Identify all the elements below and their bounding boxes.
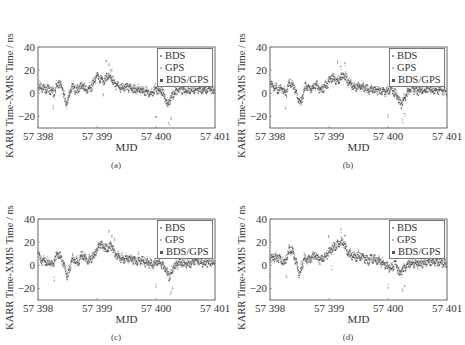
square-marker-icon [392, 67, 394, 69]
square-marker-icon [160, 239, 162, 241]
panel-caption: (b) [232, 160, 464, 170]
legend-label: BDS/GPS [398, 74, 441, 86]
legend-label: GPS [397, 234, 416, 246]
square-marker-icon [160, 79, 163, 82]
x-tick-label: 57 400 [373, 130, 404, 142]
y-axis-label: KARR Time-XMIS Time / ns [4, 33, 15, 158]
legend-label: BDS/GPS [398, 246, 441, 258]
legend-item: BDS [392, 222, 441, 234]
square-marker-icon [160, 227, 162, 229]
x-axis-label: MJD [347, 313, 369, 325]
x-tick-label: 57 398 [255, 302, 286, 314]
y-axis-label: KARR Time-XMIS Time / ns [4, 205, 15, 330]
x-tick-label: 57 401 [432, 302, 462, 314]
y-tick-label: −20 [250, 110, 268, 122]
x-tick-label: 57 399 [314, 130, 345, 142]
square-marker-icon [160, 251, 163, 254]
y-tick-label: 0 [30, 259, 36, 271]
x-axis-label: MJD [115, 141, 137, 153]
legend-label: BDS [165, 50, 185, 62]
panel-caption: (c) [0, 332, 232, 342]
y-tick-label: −20 [250, 282, 268, 294]
x-tick-label: 57 400 [141, 130, 172, 142]
y-tick-label: 20 [24, 64, 36, 76]
y-tick-label: 0 [262, 87, 268, 99]
y-tick-label: 20 [256, 64, 268, 76]
x-tick-label: 57 400 [141, 302, 172, 314]
y-tick-label: 40 [24, 41, 36, 53]
chart-panel-b: 40200−2057 39857 39957 40057 401MJDKARR … [232, 0, 464, 172]
chart-panel-d: 40200−2057 39857 39957 40057 401MJDKARR … [232, 172, 464, 344]
legend-label: GPS [397, 62, 416, 74]
legend: BDSGPSBDS/GPS [157, 220, 213, 259]
legend-label: GPS [165, 62, 184, 74]
chart-panel-a: 40200−2057 39857 39957 40057 401MJDKARR … [0, 0, 232, 172]
y-tick-label: 0 [30, 87, 36, 99]
square-marker-icon [392, 79, 395, 82]
square-marker-icon [392, 251, 395, 254]
legend-item: BDS/GPS [392, 246, 441, 258]
legend: BDSGPSBDS/GPS [389, 220, 445, 259]
legend-label: BDS [397, 222, 417, 234]
x-tick-label: 57 399 [314, 302, 345, 314]
y-tick-label: 0 [262, 259, 268, 271]
y-tick-label: 40 [24, 213, 36, 225]
y-tick-label: 40 [256, 213, 268, 225]
x-tick-label: 57 399 [82, 302, 113, 314]
x-tick-label: 57 399 [82, 130, 113, 142]
legend-item: BDS/GPS [160, 246, 209, 258]
legend-item: BDS [160, 222, 209, 234]
x-tick-label: 57 398 [23, 130, 54, 142]
legend: BDSGPSBDS/GPS [157, 48, 213, 87]
square-marker-icon [160, 67, 162, 69]
x-axis-label: MJD [115, 313, 137, 325]
legend-item: GPS [392, 234, 441, 246]
square-marker-icon [392, 227, 394, 229]
x-tick-label: 57 401 [200, 130, 230, 142]
square-marker-icon [392, 55, 394, 57]
panel-caption: (a) [0, 160, 232, 170]
legend-item: BDS/GPS [392, 74, 441, 86]
legend-label: BDS [165, 222, 185, 234]
y-tick-label: 20 [24, 236, 36, 248]
legend-label: BDS/GPS [166, 74, 209, 86]
y-tick-label: −20 [18, 110, 36, 122]
y-tick-label: 40 [256, 41, 268, 53]
legend-item: BDS [160, 50, 209, 62]
x-axis-label: MJD [347, 141, 369, 153]
legend-item: BDS [392, 50, 441, 62]
legend-item: GPS [160, 62, 209, 74]
y-axis-label: KARR Time-XMIS Time / ns [236, 33, 247, 158]
x-tick-label: 57 401 [432, 130, 462, 142]
legend-item: GPS [160, 234, 209, 246]
y-tick-label: 20 [256, 236, 268, 248]
x-tick-label: 57 398 [23, 302, 54, 314]
legend-label: BDS/GPS [166, 246, 209, 258]
x-tick-label: 57 401 [200, 302, 230, 314]
x-tick-label: 57 400 [373, 302, 404, 314]
legend-label: BDS [397, 50, 417, 62]
legend-item: BDS/GPS [160, 74, 209, 86]
panel-caption: (d) [232, 332, 464, 342]
chart-panel-c: 40200−2057 39857 39957 40057 401MJDKARR … [0, 172, 232, 344]
legend: BDSGPSBDS/GPS [389, 48, 445, 87]
square-marker-icon [392, 239, 394, 241]
y-tick-label: −20 [18, 282, 36, 294]
x-tick-label: 57 398 [255, 130, 286, 142]
y-axis-label: KARR Time-XMIS Time / ns [236, 205, 247, 330]
legend-item: GPS [392, 62, 441, 74]
square-marker-icon [160, 55, 162, 57]
legend-label: GPS [165, 234, 184, 246]
